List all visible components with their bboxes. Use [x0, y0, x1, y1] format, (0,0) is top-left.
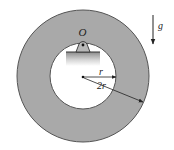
outer-radius-label: 2r — [97, 80, 106, 91]
support-block — [66, 52, 100, 66]
pivot-label: O — [79, 26, 87, 38]
center-point — [82, 76, 85, 79]
inner-radius-label: r — [99, 66, 103, 77]
pivot-dot — [82, 44, 85, 47]
gravity-indicator: g — [153, 15, 163, 44]
pivoted-ring-diagram: O r 2r g — [0, 0, 174, 150]
gravity-label: g — [158, 20, 163, 31]
